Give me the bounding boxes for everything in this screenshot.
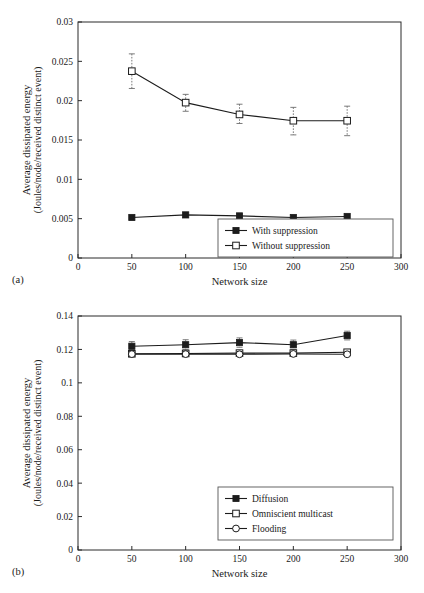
y-tick-label: 0.04 xyxy=(56,479,73,489)
y-axis-title: Average dissipated energy xyxy=(21,377,32,488)
y-tick-label: 0 xyxy=(68,253,73,263)
figure-page: 05010015020025030000.0050.010.0150.020.0… xyxy=(0,0,424,593)
data-point-marker xyxy=(236,111,243,118)
x-tick-label: 100 xyxy=(179,262,194,272)
legend-item-label: With suppression xyxy=(252,226,318,236)
y-tick-label: 0.025 xyxy=(52,57,74,67)
legend-item-label: Diffusion xyxy=(252,494,288,504)
x-tick-label: 0 xyxy=(76,554,81,564)
y-axis-title-units: (Joules/node/received distinct event) xyxy=(32,67,44,214)
legend-item-label: Without suppression xyxy=(252,241,330,251)
y-tick-label: 0.12 xyxy=(56,345,73,355)
x-tick-label: 50 xyxy=(127,554,137,564)
x-tick-label: 50 xyxy=(127,262,137,272)
data-point-marker xyxy=(236,213,242,219)
y-tick-label: 0.03 xyxy=(56,17,73,27)
y-tick-label: 0.005 xyxy=(52,214,74,224)
data-point-marker xyxy=(344,117,351,124)
x-tick-label: 250 xyxy=(340,554,355,564)
y-tick-label: 0.01 xyxy=(56,175,73,185)
legend-marker xyxy=(233,510,240,517)
data-point-marker xyxy=(344,351,351,358)
chart-legend xyxy=(218,219,393,257)
y-tick-label: 0.02 xyxy=(56,512,73,522)
data-point-marker xyxy=(129,68,136,75)
x-tick-label: 300 xyxy=(394,554,409,564)
legend-item-label: Flooding xyxy=(252,524,287,534)
y-tick-label: 0.06 xyxy=(56,445,73,455)
data-point-marker xyxy=(290,351,297,358)
data-point-marker xyxy=(182,99,189,106)
legend-item-label: Omniscient multicast xyxy=(252,509,333,519)
data-point-marker xyxy=(290,342,296,348)
y-axis-title-units: (Joules/node/received distinct event) xyxy=(32,360,44,507)
chart-panel-a: 05010015020025030000.0050.010.0150.020.0… xyxy=(0,0,424,296)
data-point-marker xyxy=(183,212,189,218)
chart-panel-b: 05010015020025030000.020.040.060.080.10.… xyxy=(0,296,424,593)
data-point-marker xyxy=(344,332,350,338)
x-tick-label: 150 xyxy=(232,554,247,564)
y-tick-label: 0.08 xyxy=(56,412,73,422)
x-tick-label: 100 xyxy=(179,554,194,564)
x-tick-label: 250 xyxy=(340,262,355,272)
data-point-marker xyxy=(129,214,135,220)
line-chart-a: 05010015020025030000.0050.010.0150.020.0… xyxy=(0,0,424,296)
y-axis-title: Average dissipated energy xyxy=(21,84,32,195)
x-tick-label: 200 xyxy=(286,262,301,272)
x-axis-title: Network size xyxy=(212,568,268,579)
panel-b-caption: (b) xyxy=(12,566,25,578)
y-tick-label: 0.02 xyxy=(56,96,73,106)
legend-marker xyxy=(233,495,239,501)
x-tick-label: 150 xyxy=(232,262,247,272)
legend-marker xyxy=(233,525,240,532)
x-tick-label: 200 xyxy=(286,554,301,564)
data-point-marker xyxy=(183,342,189,348)
y-tick-label: 0.14 xyxy=(56,311,73,321)
data-point-marker xyxy=(236,351,243,358)
y-tick-label: 0.1 xyxy=(61,378,73,388)
data-point-marker xyxy=(182,351,189,358)
legend-marker xyxy=(233,242,240,249)
y-tick-label: 0 xyxy=(68,545,73,555)
data-point-marker xyxy=(129,343,135,349)
x-tick-label: 0 xyxy=(76,262,81,272)
x-tick-label: 300 xyxy=(394,262,409,272)
x-axis-title: Network size xyxy=(212,276,268,287)
data-point-marker xyxy=(236,339,242,345)
legend-marker xyxy=(233,227,239,233)
panel-a-caption: (a) xyxy=(12,274,24,286)
line-chart-b: 05010015020025030000.020.040.060.080.10.… xyxy=(0,296,424,593)
data-point-marker xyxy=(290,117,297,124)
data-point-marker xyxy=(128,351,135,358)
y-tick-label: 0.015 xyxy=(52,135,74,145)
